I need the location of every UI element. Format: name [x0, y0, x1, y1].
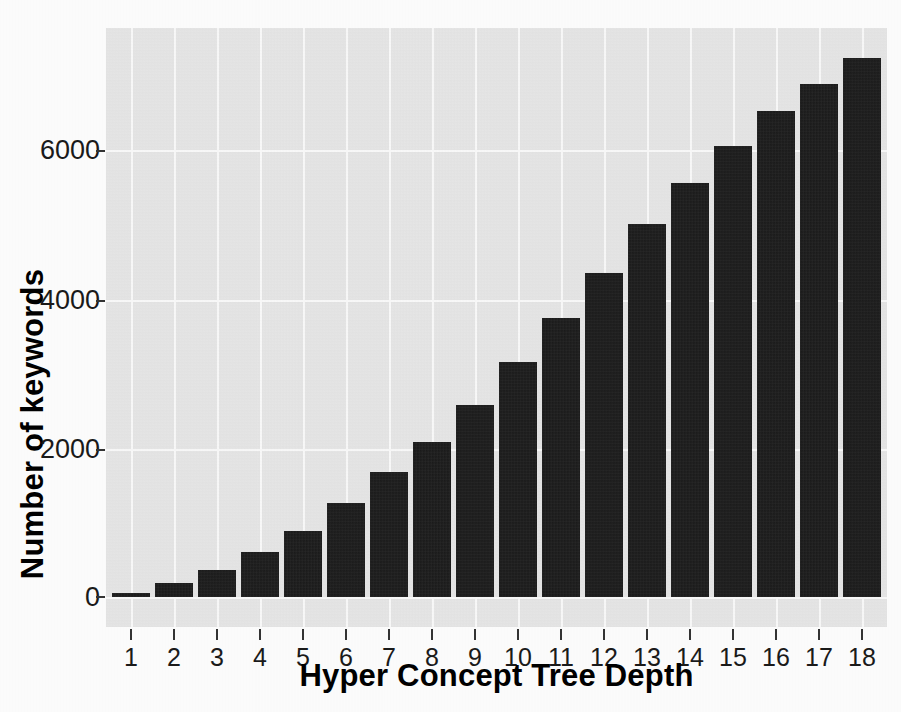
bar-texture: [413, 442, 451, 597]
x-tick-mark-1: [130, 629, 132, 640]
y-tick-mark-6000: [96, 150, 105, 152]
bar-texture: [155, 583, 193, 597]
x-tick-mark-6: [345, 629, 347, 640]
x-tick-mark-9: [474, 629, 476, 640]
bar-texture: [456, 405, 494, 597]
bar-depth-8: [413, 442, 451, 597]
bar-depth-11: [542, 318, 580, 597]
x-axis-title: Hyper Concept Tree Depth: [106, 658, 887, 694]
x-tick-mark-14: [689, 629, 691, 640]
bar-depth-14: [671, 183, 709, 597]
bar-depth-17: [800, 84, 838, 597]
y-tick-mark-2000: [96, 449, 105, 451]
bar-depth-1: [112, 593, 150, 597]
x-tick-mark-12: [603, 629, 605, 640]
bar-texture: [327, 503, 365, 597]
bar-depth-18: [843, 58, 881, 597]
bar-texture: [542, 318, 580, 597]
x-tick-mark-18: [861, 629, 863, 640]
x-tick-mark-11: [560, 629, 562, 640]
bar-texture: [499, 362, 537, 597]
x-tick-mark-7: [388, 629, 390, 640]
bar-texture: [370, 472, 408, 597]
bar-texture: [800, 84, 838, 597]
bar-depth-4: [241, 552, 279, 597]
bar-depth-6: [327, 503, 365, 597]
bar-texture: [843, 58, 881, 597]
y-tick-mark-0: [96, 596, 105, 598]
gridline-x-3: [217, 28, 219, 627]
gridline-x-2: [174, 28, 176, 627]
x-tick-mark-4: [259, 629, 261, 640]
bar-depth-9: [456, 405, 494, 597]
bar-texture: [198, 570, 236, 597]
y-tick-label-0: 0: [8, 584, 100, 611]
x-tick-mark-13: [646, 629, 648, 640]
bar-texture: [628, 224, 666, 597]
x-tick-mark-10: [517, 629, 519, 640]
y-tick-mark-4000: [96, 300, 105, 302]
bar-texture: [585, 273, 623, 597]
gridline-x-4: [260, 28, 262, 627]
bar-depth-16: [757, 111, 795, 597]
x-tick-mark-3: [216, 629, 218, 640]
bar-depth-10: [499, 362, 537, 597]
plot-panel: [106, 28, 887, 627]
bar-texture: [241, 552, 279, 597]
bar-depth-13: [628, 224, 666, 597]
bar-depth-5: [284, 531, 322, 597]
x-tick-mark-8: [431, 629, 433, 640]
x-tick-mark-16: [775, 629, 777, 640]
x-tick-mark-17: [818, 629, 820, 640]
bar-texture: [714, 146, 752, 597]
bar-texture: [284, 531, 322, 597]
bar-depth-15: [714, 146, 752, 597]
y-tick-label-6000: 6000: [8, 137, 100, 164]
bar-texture: [671, 183, 709, 597]
y-tick-label-4000: 4000: [8, 287, 100, 314]
bar-texture: [112, 593, 150, 597]
y-tick-label-2000: 2000: [8, 436, 100, 463]
x-tick-mark-15: [732, 629, 734, 640]
bar-depth-2: [155, 583, 193, 597]
x-tick-mark-2: [173, 629, 175, 640]
bar-depth-12: [585, 273, 623, 597]
gridline-y-0: [106, 597, 887, 599]
bar-depth-7: [370, 472, 408, 597]
bar-depth-3: [198, 570, 236, 597]
x-tick-mark-5: [302, 629, 304, 640]
gridline-x-1: [131, 28, 133, 627]
bar-texture: [757, 111, 795, 597]
